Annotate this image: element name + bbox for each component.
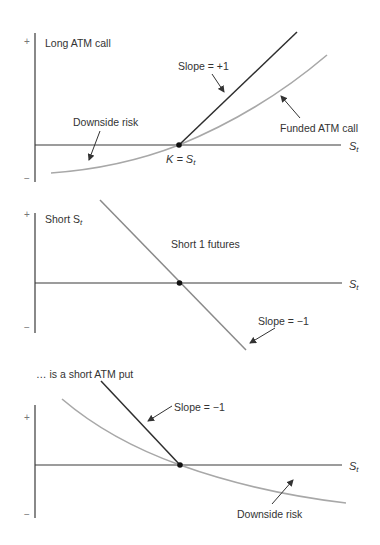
- downside-risk-label: Downside risk: [237, 508, 303, 520]
- minus-sign: −: [24, 173, 30, 184]
- panel-title: Short St: [45, 213, 83, 227]
- x-axis-label: St: [349, 140, 359, 154]
- panel-short-atm-put: … is a short ATM put + − Slope = −1 Down…: [24, 368, 359, 520]
- strike-point: [176, 142, 182, 148]
- panel-long-atm-call: + − Long ATM call Slope = +1 Downside ri…: [24, 32, 359, 184]
- slope-label: Slope = −1: [174, 401, 225, 413]
- strike-point: [177, 280, 183, 286]
- funded-call-label: Funded ATM call: [280, 122, 358, 134]
- slope-arrow: [250, 328, 275, 343]
- funded-arrow: [281, 96, 300, 118]
- plus-sign: +: [24, 412, 30, 423]
- slope-arrow: [212, 74, 224, 92]
- short-put-line: [101, 381, 180, 465]
- plus-sign: +: [24, 209, 30, 220]
- short-futures-line: [100, 200, 246, 350]
- strike-point: [177, 462, 183, 468]
- payoff-diagrams: + − Long ATM call Slope = +1 Downside ri…: [0, 0, 380, 545]
- short-futures-label: Short 1 futures: [171, 238, 240, 250]
- panel-title: Long ATM call: [45, 37, 111, 49]
- panel-title: … is a short ATM put: [36, 368, 133, 380]
- minus-sign: −: [24, 322, 30, 333]
- plus-sign: +: [24, 36, 30, 47]
- slope-label: Slope = −1: [258, 315, 309, 327]
- x-axis-label: St: [349, 278, 359, 292]
- slope-label: Slope = +1: [178, 60, 229, 72]
- short-put-curve: [62, 399, 346, 503]
- slope-arrow: [148, 406, 172, 421]
- downside-risk-label: Downside risk: [73, 116, 139, 128]
- x-axis-label: St: [349, 460, 359, 474]
- panel-short-futures: + − Short St Short 1 futures Slope = −1 …: [24, 200, 359, 350]
- minus-sign: −: [24, 509, 30, 520]
- strike-label: K = St: [166, 153, 196, 167]
